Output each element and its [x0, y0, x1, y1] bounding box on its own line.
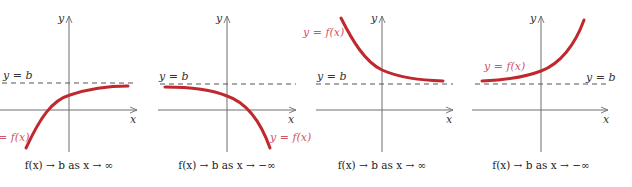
panel-4: y x y = b y = f(x) f(x) → b as x → −∞ — [472, 12, 615, 171]
caption: f(x) → b as x → −∞ — [492, 159, 589, 171]
x-axis-label: x — [603, 113, 610, 126]
x-axis-label: x — [446, 113, 453, 126]
caption: f(x) → b as x → ∞ — [25, 159, 114, 171]
asymptote-label: y = b — [158, 70, 188, 83]
x-axis-label: x — [288, 113, 295, 126]
caption: f(x) → b as x → ∞ — [338, 159, 427, 171]
panel-1: y x y = b = f(x) f(x) → b as x → ∞ — [0, 12, 137, 171]
y-axis-label: y — [529, 12, 537, 25]
asymptote-label: y = b — [2, 69, 32, 82]
caption: f(x) → b as x → −∞ — [178, 159, 275, 171]
asymptote-label: y = b — [585, 71, 615, 84]
curve-label: = f(x) — [0, 131, 30, 144]
panel-2: y x y = b y = f(x) f(x) → b as x → −∞ — [158, 12, 311, 171]
curve-label: y = f(x) — [483, 60, 525, 73]
asymptote-label: y = b — [316, 70, 346, 83]
y-axis-label: y — [57, 12, 65, 25]
function-curve — [165, 87, 270, 148]
y-axis-label: y — [370, 12, 378, 25]
function-curve — [26, 86, 128, 148]
curve-label: y = f(x) — [269, 131, 311, 144]
y-axis-label: y — [215, 12, 223, 25]
panel-3: y x y = b y = f(x) f(x) → b as x → ∞ — [302, 12, 453, 171]
x-axis-label: x — [130, 113, 137, 126]
curve-label: y = f(x) — [302, 26, 344, 39]
function-curve — [341, 18, 443, 81]
horizontal-asymptote-diagrams: y x y = b = f(x) f(x) → b as x → ∞ y x y… — [0, 0, 632, 187]
